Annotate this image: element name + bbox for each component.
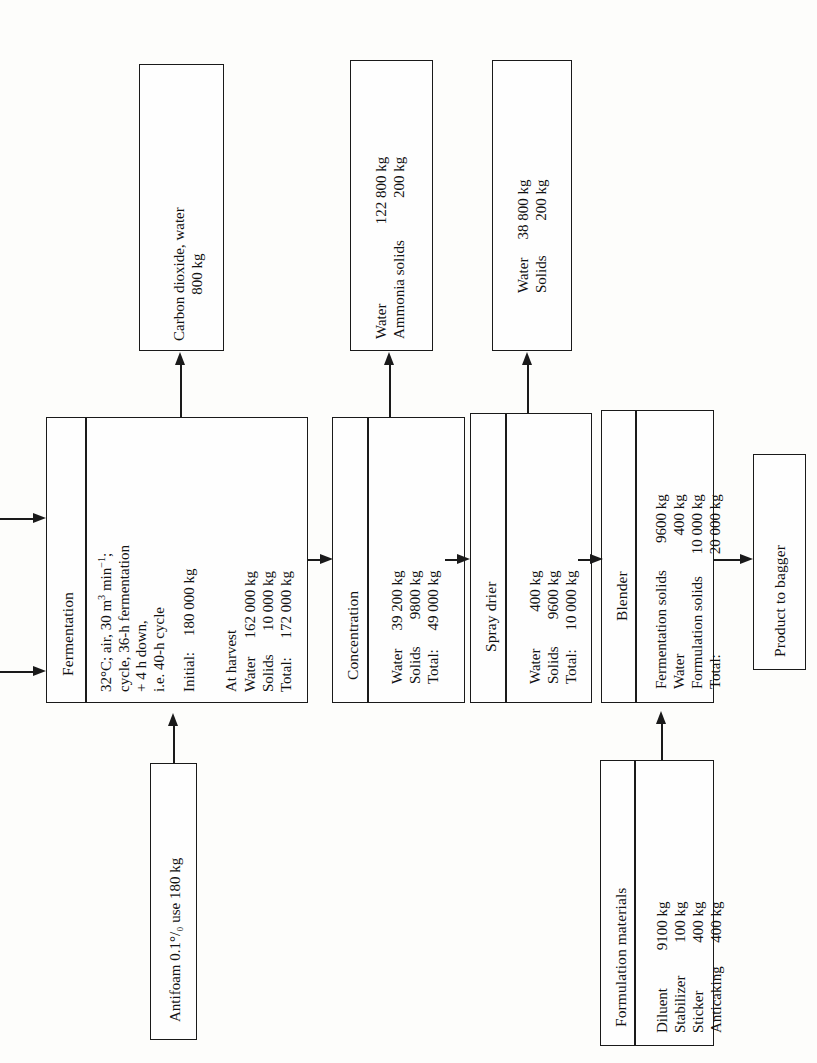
vapour-row-label: Ammonia solids: [390, 224, 408, 339]
blender-row-value: 20 000 kg: [706, 494, 724, 554]
process-box-fermentation: Fermentation 32°C; air, 30 m3 min−1; cyc…: [46, 417, 308, 703]
output-box-fermentation-offgas: Carbon dioxide, water 800 kg: [139, 64, 224, 351]
blender-header-divider: [635, 411, 637, 702]
percent-glyph: °/₀: [167, 927, 183, 942]
spray-drier-title: Spray drier: [482, 582, 500, 652]
product-to-bagger-label: Product to bagger: [771, 545, 789, 657]
fermentation-row-label: Water: [241, 638, 259, 692]
input-box-antifoam: Antifoam 0.1°/₀ use 180 kg: [150, 763, 197, 1040]
output-box-concentration-vapour: Water 122 800 kg Ammonia solids 200 kg: [350, 60, 433, 351]
concentration-row-value: 49 000 kg: [424, 570, 442, 630]
arrowhead-formulation-to-blender: [656, 711, 666, 724]
exhaust-row-label: Solids: [532, 239, 550, 293]
arrowhead-feed-top: [33, 513, 46, 523]
fermentation-title: Fermentation: [59, 592, 77, 676]
formulation-row-label: Sticker: [689, 950, 707, 1033]
formulation-row-label: Diluent: [653, 950, 671, 1033]
process-flow-diagram: Carbon dioxide, water 800 kg Water 122 8…: [0, 0, 817, 1063]
concentration-title: Concentration: [344, 591, 362, 680]
blender-title: Blender: [613, 571, 631, 621]
exhaust-row-label: Water: [514, 239, 532, 293]
concentration-header-divider: [367, 418, 369, 702]
spray-drier-row-value: 10 000 kg: [562, 570, 580, 630]
concentration-row-label: Total:: [424, 630, 442, 684]
process-box-spray-drier: Spray drier Water 400 kg Solids 9600 kg …: [470, 413, 592, 703]
input-box-formulation-materials: Formulation materials Diluent 9100 kg St…: [600, 760, 714, 1046]
output-box-drier-exhaust: Water 38 800 kg Solids 200 kg: [492, 60, 572, 351]
arrowhead-concentration-to-spray-drier: [457, 554, 470, 564]
blender-row-label: Total:: [706, 554, 724, 689]
arrowhead-spray-drier-to-exhaust: [522, 352, 532, 365]
fermentation-condition-line3: + 4 h down,: [133, 545, 151, 692]
fermentation-at-harvest-label: At harvest: [223, 571, 241, 692]
offgas-line1: Carbon dioxide, water: [171, 207, 189, 341]
arrowhead-fermentation-to-offgas: [175, 352, 185, 365]
spray-drier-header-divider: [505, 414, 507, 702]
connector-blender-to-product: [714, 559, 741, 561]
antifoam-label: Antifoam 0.1°/₀ use 180 kg: [167, 858, 185, 1022]
vapour-row-value: 200 kg: [390, 157, 408, 225]
spray-drier-row-label: Solids: [544, 630, 562, 684]
blender-row-value: 400 kg: [670, 494, 688, 554]
formulation-row-value: 100 kg: [671, 902, 689, 951]
concentration-row-value: 9800 kg: [406, 570, 424, 630]
fermentation-row-label: Total:: [277, 638, 295, 692]
vapour-row-value: 122 800 kg: [372, 157, 390, 225]
arrowhead-spray-drier-to-blender: [590, 554, 603, 564]
formulation-row-value: 9100 kg: [653, 902, 671, 951]
connector-antifoam-to-fermentation: [173, 726, 175, 764]
connector-spray-drier-to-exhaust: [527, 364, 529, 417]
arrowhead-concentration-to-vapour: [384, 352, 394, 365]
spray-drier-row-label: Water: [526, 630, 544, 684]
exhaust-row-value: 200 kg: [532, 179, 550, 239]
fermentation-initial-label: Initial:: [180, 636, 198, 692]
arrowhead-blender-to-product: [740, 554, 753, 564]
concentration-row-label: Water: [388, 630, 406, 684]
offgas-line2: 800 kg: [189, 207, 207, 341]
formulation-row-label: Stabilizer: [671, 950, 689, 1033]
spray-drier-row-label: Total:: [562, 630, 580, 684]
blender-row-label: Formulation solids: [688, 554, 706, 689]
spray-drier-row-value: 400 kg: [526, 570, 544, 630]
connector-feed-top: [0, 518, 34, 520]
fermentation-header-divider: [85, 418, 87, 702]
blender-row-value: 9600 kg: [652, 494, 670, 554]
concentration-row-value: 39 200 kg: [388, 570, 406, 630]
fermentation-condition-line4: i.e. 40-h cycle: [151, 545, 169, 692]
fermentation-condition-line2: cycle, 36-h fermentation: [116, 545, 134, 692]
fermentation-row-value: 10 000 kg: [259, 571, 277, 639]
formulation-header-divider: [634, 761, 636, 1045]
vapour-row-label: Water: [372, 224, 390, 339]
formulation-row-value: 400 kg: [707, 902, 725, 951]
fermentation-row-value: 162 000 kg: [241, 571, 259, 639]
connector-feed-bottom: [0, 671, 34, 673]
concentration-row-label: Solids: [406, 630, 424, 684]
spray-drier-row-value: 9600 kg: [544, 570, 562, 630]
fermentation-row-value: 172 000 kg: [277, 571, 295, 639]
blender-row-value: 10 000 kg: [688, 494, 706, 554]
fermentation-initial-value: 180 000 kg: [180, 569, 198, 637]
arrowhead-fermentation-to-concentration: [320, 554, 333, 564]
blender-row-label: Water: [670, 554, 688, 689]
connector-concentration-to-vapour: [389, 364, 391, 417]
process-box-blender: Blender Fermentation solids 9600 kg Wate…: [601, 410, 714, 703]
blender-row-label: Fermentation solids: [652, 554, 670, 689]
exhaust-row-value: 38 800 kg: [514, 179, 532, 239]
fermentation-condition-line1: 32°C; air, 30 m3 min−1;: [96, 545, 116, 692]
connector-fermentation-to-offgas: [180, 364, 182, 417]
formulation-materials-title: Formulation materials: [612, 888, 630, 1027]
arrowhead-antifoam-to-fermentation: [168, 713, 178, 726]
formulation-row-label: Anticaking: [707, 950, 725, 1033]
connector-formulation-to-blender: [661, 724, 663, 761]
formulation-row-value: 400 kg: [689, 902, 707, 951]
output-box-product-to-bagger: Product to bagger: [753, 454, 806, 670]
arrowhead-feed-bottom: [33, 666, 46, 676]
fermentation-row-label: Solids: [259, 638, 277, 692]
